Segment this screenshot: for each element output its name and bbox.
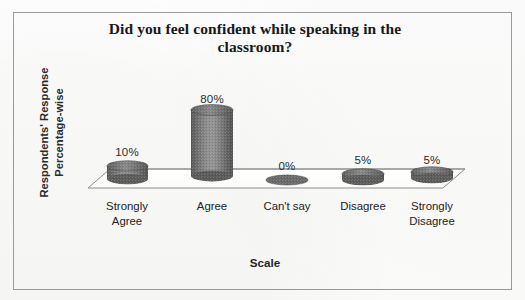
chart-figure: Did you feel confident while speaking in… [0, 0, 525, 300]
y-axis-title: Respondents' Response Percentage-wise [37, 58, 66, 208]
category-label-agree: Agree [174, 199, 250, 214]
category-label-strongly-agree-line-1: Strongly [89, 199, 165, 214]
category-label-strongly-agree-line-2: Agree [89, 214, 165, 229]
category-label-strongly-disagree-line-1: Strongly [394, 199, 470, 214]
y-axis-title-line-1: Respondents' Response [37, 58, 52, 208]
category-label-strongly-agree: Strongly Agree [89, 199, 165, 228]
data-label-agree: 80% [189, 93, 235, 105]
category-label-strongly-disagree-line-2: Disagree [394, 214, 470, 229]
chart-title-line-1: Did you feel confident while speaking in… [55, 20, 455, 38]
x-axis-title: Scale [195, 256, 335, 269]
y-axis-title-line-2: Percentage-wise [51, 58, 66, 208]
category-label-disagree-line-1: Disagree [325, 199, 401, 214]
category-label-disagree: Disagree [325, 199, 401, 214]
chart-title-line-2: classroom? [55, 38, 455, 56]
category-label-strongly-disagree: Strongly Disagree [394, 199, 470, 228]
data-label-strongly-agree: 10% [104, 146, 150, 158]
data-label-cant-say: 0% [264, 160, 310, 172]
data-label-disagree: 5% [340, 154, 386, 166]
chart-title: Did you feel confident while speaking in… [55, 20, 455, 56]
category-label-cant-say-line-1: Can't say [249, 199, 325, 214]
data-label-strongly-disagree: 5% [409, 154, 455, 166]
category-label-agree-line-1: Agree [174, 199, 250, 214]
category-label-cant-say: Can't say [249, 199, 325, 214]
